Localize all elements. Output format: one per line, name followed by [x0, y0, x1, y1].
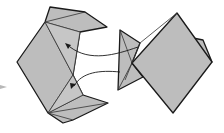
diagram-canvas	[0, 0, 224, 133]
right-model	[118, 13, 212, 113]
previous-step-arrow-icon	[0, 85, 7, 89]
diamond-body	[132, 13, 212, 113]
left-model	[17, 7, 108, 123]
origami-diagram	[0, 0, 224, 133]
lower-tuck-arrow	[74, 71, 120, 86]
